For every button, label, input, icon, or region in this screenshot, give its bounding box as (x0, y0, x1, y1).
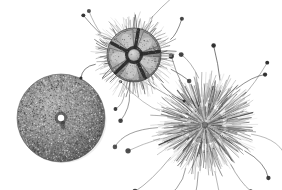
specimen-left-bare-test (17, 74, 107, 163)
urchin-plate-svg (0, 0, 282, 190)
illustration-plate (0, 0, 282, 190)
